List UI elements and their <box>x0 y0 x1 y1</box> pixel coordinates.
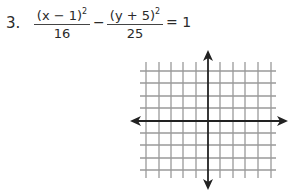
axes <box>135 56 283 184</box>
coordinate-grid[interactable] <box>0 0 304 194</box>
